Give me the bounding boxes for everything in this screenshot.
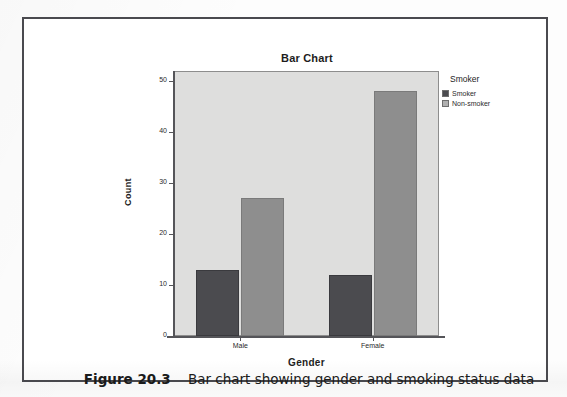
x-axis-tick: [240, 336, 241, 341]
x-axis-title: Gender: [174, 357, 439, 368]
legend-title: Smoker: [450, 74, 528, 84]
x-axis-line: [167, 336, 445, 338]
y-tick-label: 40: [159, 127, 167, 134]
x-category-label-male: Male: [200, 342, 280, 349]
y-tick-label: 20: [159, 229, 167, 236]
y-axis-title: Count: [123, 162, 133, 222]
y-axis-tick: 0: [148, 336, 174, 337]
caption-number: Figure 20.3: [84, 371, 171, 387]
bar-female-smoker: [329, 275, 372, 336]
y-axis-tick: 30: [148, 183, 174, 184]
x-axis-tick: [373, 336, 374, 341]
figure-caption: Figure 20.3 Bar chart showing gender and…: [46, 371, 567, 387]
y-tick-mark: [169, 183, 174, 184]
y-tick-mark: [169, 285, 174, 286]
y-tick-mark: [169, 234, 174, 235]
y-tick-mark: [169, 336, 174, 337]
legend-entries: SmokerNon-smoker: [442, 90, 528, 107]
bar-female-non-smoker: [374, 91, 417, 336]
y-tick-label: 50: [159, 76, 167, 83]
legend-label: Smoker: [452, 90, 476, 97]
y-tick-mark: [169, 81, 174, 82]
y-tick-label: 10: [159, 280, 167, 287]
figure-frame: Bar Chart 01020304050 Count MaleFemale G…: [22, 17, 548, 382]
y-axis-line: [173, 71, 175, 337]
y-axis-tick: 20: [148, 234, 174, 235]
legend-label: Non-smoker: [452, 100, 490, 107]
legend-swatch-icon: [442, 90, 449, 97]
page-background: Bar Chart 01020304050 Count MaleFemale G…: [0, 0, 567, 397]
bar-male-smoker: [196, 270, 239, 336]
y-axis-tick: 10: [148, 285, 174, 286]
x-category-label-female: Female: [333, 342, 413, 349]
legend-item[interactable]: Smoker: [442, 90, 528, 97]
y-tick-label: 0: [163, 331, 167, 338]
legend-swatch-icon: [442, 100, 449, 107]
legend: Smoker SmokerNon-smoker: [442, 74, 528, 110]
caption-text: Bar chart showing gender and smoking sta…: [188, 371, 534, 387]
y-axis-tick: 50: [148, 81, 174, 82]
chart-title: Bar Chart: [174, 52, 440, 64]
y-axis-tick: 40: [148, 132, 174, 133]
legend-item[interactable]: Non-smoker: [442, 100, 528, 107]
y-tick-label: 30: [159, 178, 167, 185]
bar-male-non-smoker: [241, 198, 284, 336]
y-tick-mark: [169, 132, 174, 133]
